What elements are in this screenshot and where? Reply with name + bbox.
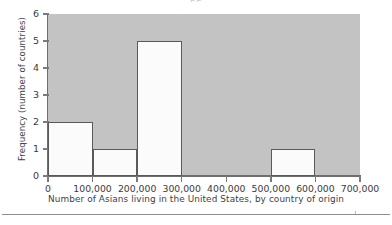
y-tick-mark xyxy=(43,94,49,95)
histogram-bar xyxy=(137,41,182,176)
x-tick-mark xyxy=(226,176,227,182)
histogram-figure: Frequency (number of countries) 0123456 … xyxy=(0,0,392,225)
x-tick-mark xyxy=(181,176,182,182)
x-axis-title: Number of Asians living in the United St… xyxy=(0,194,392,204)
y-tick-label: 0 xyxy=(19,170,39,181)
y-tick-mark xyxy=(43,13,49,14)
y-tick-label: 4 xyxy=(19,62,39,73)
bottom-divider xyxy=(2,214,390,215)
bottom-divider-tick xyxy=(355,211,356,214)
y-tick-label: 3 xyxy=(19,89,39,100)
x-tick-mark xyxy=(270,176,271,182)
x-tick-mark xyxy=(315,176,316,182)
y-tick-label: 6 xyxy=(19,8,39,19)
x-tick-mark xyxy=(47,176,48,182)
y-tick-label: 1 xyxy=(19,143,39,154)
y-tick-label: 5 xyxy=(19,35,39,46)
histogram-bar xyxy=(48,122,93,176)
x-tick-mark xyxy=(136,176,137,182)
x-tick-mark xyxy=(359,176,360,182)
x-tick-mark xyxy=(92,176,93,182)
y-tick-mark xyxy=(43,67,49,68)
y-tick-label: 2 xyxy=(19,116,39,127)
histogram-bar xyxy=(271,149,316,176)
x-tick-label: 700,000 xyxy=(325,183,392,194)
y-tick-mark xyxy=(43,40,49,41)
histogram-bar xyxy=(93,149,138,176)
